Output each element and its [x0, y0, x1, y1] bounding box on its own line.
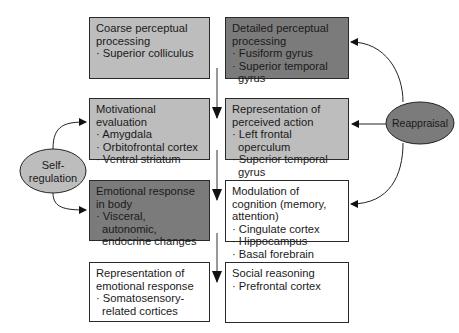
box-item: · Prefrontal cortex: [232, 280, 342, 293]
box-item: · Left frontal operculum: [232, 128, 342, 153]
box-item: · Hippocampus: [232, 235, 342, 248]
box-social-reasoning: Social reasoning · Prefrontal cortex: [225, 262, 349, 323]
box-item: · Superior temporal gyrus: [232, 153, 342, 178]
box-motivational-evaluation: Motivational evaluation · Amygdala · Orb…: [89, 98, 210, 160]
box-title: Social reasoning: [232, 267, 342, 280]
self-regulation-to-motivational-arrow: [53, 122, 86, 149]
box-title: Representation of emotional response: [96, 267, 203, 292]
box-item: · Ventral striatum: [96, 153, 203, 166]
self-regulation-label-line1: Self-: [42, 159, 65, 171]
self-regulation-label: Self- regulation: [20, 159, 86, 184]
box-detailed-perceptual-processing: Detailed perceptual processing · Fusifor…: [225, 17, 349, 79]
box-item: · Visceral, autonomic, endocrine changes: [96, 210, 203, 248]
box-representation-of-emotional-response: Representation of emotional response · S…: [89, 262, 210, 322]
box-item: · Somatosensory-related cortices: [96, 292, 203, 317]
box-item: · Fusiform gyrus: [232, 47, 342, 60]
box-representation-of-perceived-action: Representation of perceived action · Lef…: [225, 98, 349, 160]
box-title: Representation of perceived action: [232, 103, 342, 128]
box-item: · Superior colliculus: [96, 47, 203, 60]
self-regulation-to-body-arrow: [53, 193, 86, 210]
box-item: · Cingulate cortex: [232, 223, 342, 236]
box-item: · Orbitofrontal cortex: [96, 141, 203, 154]
box-title: Modulation of cognition (memory, attenti…: [232, 185, 342, 223]
box-item: · Amygdala: [96, 128, 203, 141]
box-emotional-response-in-body: Emotional response in body · Visceral, a…: [89, 180, 210, 241]
box-coarse-perceptual-processing: Coarse perceptual processing · Superior …: [89, 17, 210, 79]
box-title: Detailed perceptual processing: [232, 22, 342, 47]
box-item: · Basal forebrain: [232, 248, 342, 261]
box-modulation-of-cognition: Modulation of cognition (memory, attenti…: [225, 180, 349, 242]
self-regulation-label-line2: regulation: [29, 172, 77, 184]
box-title: Motivational evaluation: [96, 103, 203, 128]
reappraisal-label: Reappraisal: [386, 117, 454, 130]
reappraisal-to-detailed-arrow: [351, 42, 403, 102]
reappraisal-to-modulation-arrow: [351, 143, 403, 204]
box-title: Emotional response in body: [96, 185, 203, 210]
box-title: Coarse perceptual processing: [96, 22, 203, 47]
box-item: · Superior temporal gyrus: [232, 60, 342, 85]
